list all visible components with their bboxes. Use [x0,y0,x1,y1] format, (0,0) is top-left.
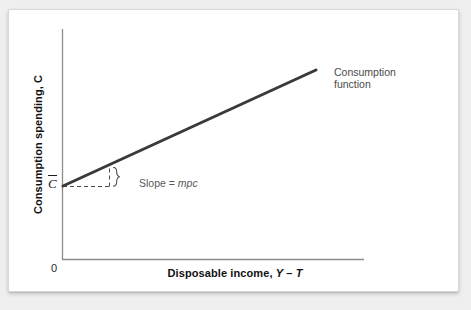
series-callout-line2: function [334,78,396,90]
origin-tick-label: 0 [51,262,57,275]
slope-annotation-prefix: Slope = [139,177,178,189]
x-axis-title-var-t: T [296,267,303,279]
consumption-function-line [63,70,316,186]
y-axis-title: Consumption spending, C [32,59,45,229]
slope-annotation-mpc: mpc [178,177,198,189]
x-axis-title-operator: – [283,267,296,279]
chart-plot-area [9,10,459,292]
series-callout-label: Consumption function [334,66,396,91]
x-axis-title-prefix: Disposable income, [167,267,275,279]
x-axis-title: Disposable income, Y – T [115,267,355,280]
slope-annotation-label: Slope = mpc [139,177,198,189]
series-callout-line1: Consumption [334,66,396,78]
y-axis-intercept-label: C [48,176,57,191]
figure-card: Consumption spending, C Disposable incom… [8,9,459,292]
slope-brace-icon [114,168,120,187]
intercept-symbol: C [48,176,57,191]
